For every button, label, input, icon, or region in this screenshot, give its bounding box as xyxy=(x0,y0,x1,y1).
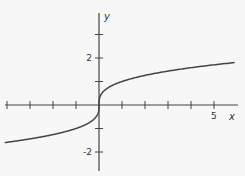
cube-root-chart: 52-2 x y xyxy=(0,0,245,176)
y-axis-label: y xyxy=(103,11,111,22)
y-tick-label: 2 xyxy=(86,53,92,63)
axes xyxy=(5,13,238,171)
x-axis-label: x xyxy=(228,111,235,122)
x-tick-label: 5 xyxy=(211,111,217,121)
y-tick-label: -2 xyxy=(83,147,92,157)
cube-root-curve xyxy=(5,63,235,143)
